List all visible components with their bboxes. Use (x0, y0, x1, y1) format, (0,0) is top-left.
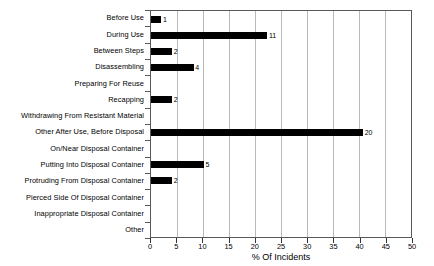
bar (151, 32, 267, 39)
category-label: Recapping (0, 91, 148, 107)
category-label: Withdrawing From Resistant Material (0, 108, 148, 124)
bar-row: 1 (151, 11, 411, 27)
x-axis-tick-label: 30 (303, 243, 311, 250)
category-label: Protruding From Disposal Container (0, 173, 148, 189)
x-axis-tick-label: 0 (148, 243, 152, 250)
bars-layer: 1112422052 (151, 11, 411, 237)
bar (151, 161, 204, 168)
bar (151, 64, 194, 71)
bar-row: 2 (151, 172, 411, 188)
bar-row: 2 (151, 92, 411, 108)
bar-value-label: 2 (174, 96, 178, 103)
x-axis-tick-label: 45 (382, 243, 390, 250)
x-axis-tick-label: 15 (224, 243, 232, 250)
category-label: Putting Into Disposal Container (0, 157, 148, 173)
x-axis-tick-label: 35 (329, 243, 337, 250)
bar-row: 11 (151, 27, 411, 43)
category-label: Inappropriate Disposal Container (0, 205, 148, 221)
x-axis-title: % Of Incidents (150, 253, 412, 262)
bar-value-label: 5 (206, 161, 210, 168)
x-axis-tick-label: 10 (198, 243, 206, 250)
bar (151, 16, 161, 23)
category-label: Other (0, 222, 148, 238)
bar-value-label: 2 (174, 177, 178, 184)
category-label: During Use (0, 26, 148, 42)
bar-row: 5 (151, 156, 411, 172)
bar (151, 96, 172, 103)
bar (151, 48, 172, 55)
bar (151, 177, 172, 184)
bar-value-label: 11 (269, 32, 276, 39)
bar-value-label: 1 (163, 16, 167, 23)
bar-row (151, 221, 411, 237)
bar-row: 4 (151, 59, 411, 75)
x-axis-tick-label: 50 (408, 243, 416, 250)
category-label: Between Steps (0, 43, 148, 59)
x-axis-tick-label: 20 (251, 243, 259, 250)
category-label: On/Near Disposal Container (0, 140, 148, 156)
category-label: Preparing For Reuse (0, 75, 148, 91)
bar-row: 20 (151, 124, 411, 140)
x-axis-tick-label: 5 (174, 243, 178, 250)
bar-row (151, 76, 411, 92)
category-label: Other After Use, Before Disposal (0, 124, 148, 140)
bar-value-label: 4 (195, 64, 199, 71)
bar-row (151, 189, 411, 205)
x-axis-tick-label: 25 (277, 243, 285, 250)
bar-row: 2 (151, 43, 411, 59)
bar-row (151, 205, 411, 221)
bar-row (151, 108, 411, 124)
plot-area: 1112422052 (150, 10, 412, 238)
category-label: Pierced Side Of Disposal Container (0, 189, 148, 205)
incidents-bar-chart: Before UseDuring UseBetween StepsDisasse… (0, 0, 434, 266)
bar-value-label: 20 (365, 129, 373, 136)
category-label: Disassembling (0, 59, 148, 75)
bar-row (151, 140, 411, 156)
category-label: Before Use (0, 10, 148, 26)
bar-value-label: 2 (174, 48, 178, 55)
bar (151, 129, 363, 136)
x-axis-tick-label: 40 (355, 243, 363, 250)
category-axis: Before UseDuring UseBetween StepsDisasse… (0, 10, 148, 238)
